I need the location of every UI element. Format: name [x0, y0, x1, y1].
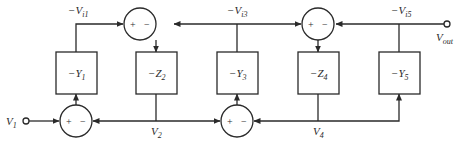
label-v2: V2 [151, 125, 162, 140]
summer-top-2: + − [302, 8, 334, 40]
minus-sign: − [144, 19, 150, 30]
label-vi5: −Vi5 [391, 4, 411, 19]
block-z4: −Z4 [298, 52, 339, 94]
label-vi1: −Vi1 [68, 4, 88, 19]
minus-sign: − [241, 116, 247, 127]
block-y1: −Y1 [56, 52, 97, 94]
diagram-canvas: −Y1 −Z2 −Y3 −Z4 −Y5 + − + − + − + − −Vi1 [0, 0, 462, 149]
minus-sign: − [80, 116, 86, 127]
block-y3: −Y3 [217, 52, 258, 94]
label-vi3: −Vi3 [227, 4, 247, 19]
block-y5: −Y5 [379, 52, 420, 94]
label-v1: V1 [6, 115, 17, 130]
block-z2: −Z2 [136, 52, 177, 94]
label-vout: Vout [436, 31, 454, 46]
plus-sign: + [308, 19, 314, 30]
summer-bottom-2: + − [221, 105, 253, 137]
plus-sign: + [130, 19, 136, 30]
plus-sign: + [66, 116, 72, 127]
summer-bottom-1: + − [60, 105, 92, 137]
ladder-signal-flow-diagram: −Y1 −Z2 −Y3 −Z4 −Y5 + − + − + − + − −Vi1 [0, 0, 462, 149]
minus-sign: − [322, 19, 328, 30]
label-v4: V4 [313, 125, 324, 140]
output-terminal [444, 21, 450, 27]
summer-top-1: + − [124, 8, 156, 40]
plus-sign: + [227, 116, 233, 127]
input-terminal [23, 118, 29, 124]
wire-y1-to-sum-top-1 [76, 24, 123, 52]
wire-v4-to-y5 [318, 94, 399, 121]
